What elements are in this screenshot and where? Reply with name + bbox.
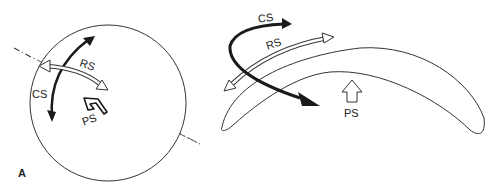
rs-label-b: RS bbox=[264, 35, 282, 51]
cs-label-a: CS bbox=[32, 88, 47, 100]
ps-label-b: PS bbox=[344, 107, 359, 119]
panel-label-a: A bbox=[18, 167, 26, 179]
diagram-canvas: CS RS PS A CS RS PS bbox=[0, 0, 498, 182]
panel-b: CS RS PS bbox=[222, 11, 485, 134]
ps-arrow-b bbox=[342, 80, 362, 102]
panel-a: CS RS PS A bbox=[14, 25, 200, 181]
sphere-circle bbox=[30, 25, 186, 181]
axis-dashed-line-left bbox=[14, 48, 36, 60]
cs-label-b: CS bbox=[257, 11, 274, 25]
